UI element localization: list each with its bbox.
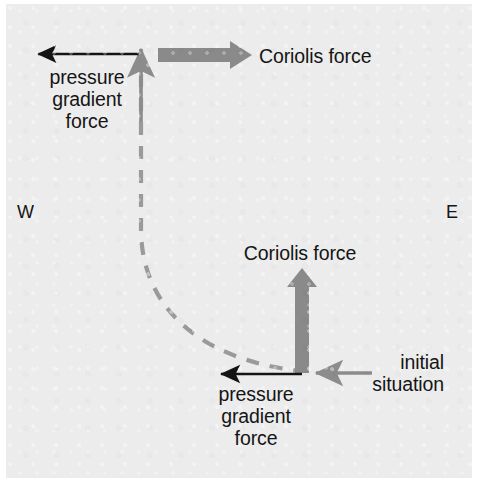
label-pressure-gradient-force-top: pressure gradient force [49,67,124,132]
trajectory-dashed-path [141,50,300,371]
coriolis-force-arrow-top [158,41,252,69]
label-coriolis-force-bottom: Coriolis force [244,243,356,265]
label-coriolis-force-top: Coriolis force [259,46,371,68]
label-east: E [446,202,458,222]
label-pressure-gradient-force-bottom: pressure gradient force [218,384,293,449]
label-initial-situation: initial situation [372,352,444,396]
label-west: W [17,202,34,222]
coriolis-force-arrow-bottom [287,268,317,373]
diagram-figure: pressure gradient force Coriolis force W… [0,0,478,493]
